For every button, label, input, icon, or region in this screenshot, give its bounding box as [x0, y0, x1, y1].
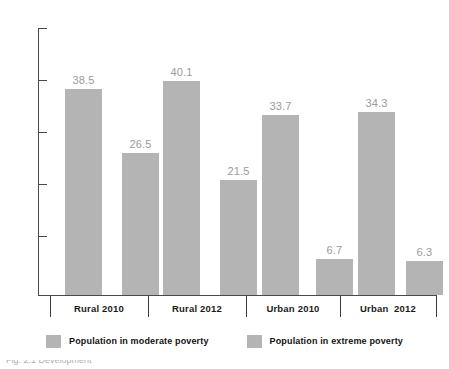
category-label-urban-2010: Urban 2010: [246, 303, 340, 314]
chart-figure: 50 40 30 20 10 38.5 26.5 40.1 21.5 33.7 …: [0, 0, 449, 369]
legend-label: Population in moderate poverty: [69, 336, 209, 346]
bar-value-label: 21.5: [214, 165, 263, 177]
plot-area: 50 40 30 20 10 38.5 26.5 40.1 21.5 33.7 …: [0, 0, 449, 300]
category-label-urban-2012: Urban 2012: [340, 303, 436, 314]
bar-value-label: 38.5: [59, 74, 108, 86]
chart-legend: Population in moderate poverty Populatio…: [0, 332, 449, 350]
bar-value-label: 33.7: [256, 100, 305, 112]
bar-rural-2010-moderate[interactable]: [65, 89, 102, 295]
bar-urban-2012-extreme[interactable]: [406, 261, 443, 295]
y-tick-50: [38, 28, 47, 29]
bar-value-label: 26.5: [116, 138, 165, 150]
y-axis-line: [38, 28, 39, 296]
legend-swatch-icon: [46, 335, 61, 348]
figure-caption-cropped: Fig. 2.1 Development: [6, 360, 446, 369]
category-label-rural-2010: Rural 2010: [50, 303, 148, 314]
legend-swatch-icon: [247, 335, 262, 348]
bar-urban-2010-extreme[interactable]: [316, 259, 353, 295]
bar-urban-2010-moderate[interactable]: [262, 115, 299, 295]
category-label-rural-2012: Rural 2012: [148, 303, 246, 314]
bar-urban-2012-moderate[interactable]: [358, 112, 395, 295]
legend-label: Population in extreme poverty: [270, 336, 403, 346]
y-tick-10: [38, 236, 47, 237]
y-tick-30: [38, 132, 47, 133]
y-tick-20: [38, 184, 47, 185]
bar-rural-2012-extreme[interactable]: [220, 180, 257, 295]
bar-value-label: 34.3: [352, 97, 401, 109]
legend-item-extreme-poverty[interactable]: Population in extreme poverty: [247, 335, 403, 348]
figure-caption-text: Fig. 2.1 Development: [6, 360, 446, 365]
bar-rural-2010-extreme[interactable]: [122, 153, 159, 295]
category-separator: [436, 296, 437, 317]
bar-value-label: 40.1: [157, 66, 206, 78]
bar-rural-2012-moderate[interactable]: [163, 81, 200, 295]
bar-value-label: 6.7: [310, 244, 359, 256]
bar-value-label: 6.3: [400, 246, 449, 258]
y-tick-40: [38, 80, 47, 81]
category-axis-band: Rural 2010 Rural 2012 Urban 2010 Urban 2…: [0, 296, 449, 318]
legend-item-moderate-poverty[interactable]: Population in moderate poverty: [46, 335, 209, 348]
